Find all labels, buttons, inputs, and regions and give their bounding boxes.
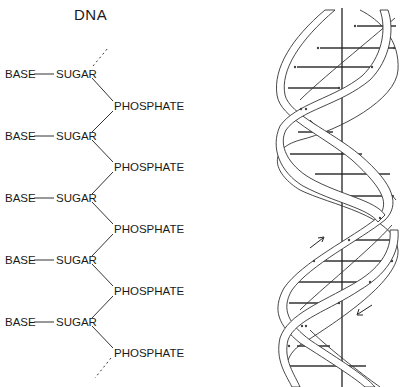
arrow-up-icon bbox=[310, 237, 324, 248]
double-helix bbox=[0, 0, 404, 387]
arrow-down-icon bbox=[357, 305, 372, 315]
